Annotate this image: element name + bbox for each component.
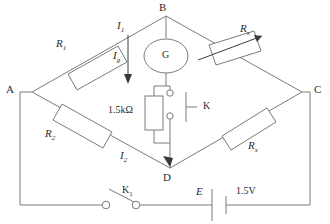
label-current-i2: I2	[120, 150, 127, 164]
label-battery-e: E	[196, 186, 203, 197]
switch-k1-terminal-left[interactable]	[102, 201, 110, 209]
circuit-diagram: B A C D R1 I1 Ig Rs G 1.5kΩ K R2 I2 Rx K…	[0, 0, 330, 224]
switch-k-terminal-bottom[interactable]	[167, 113, 173, 119]
node-label-c: C	[314, 84, 321, 95]
label-rs: Rs	[240, 23, 249, 37]
label-protect-resistor: 1.5kΩ	[108, 105, 133, 115]
label-switch-k1: K1	[122, 185, 133, 198]
label-galvanometer: G	[162, 50, 169, 60]
circuit-svg	[0, 0, 330, 224]
label-battery-voltage: 1.5V	[236, 186, 256, 196]
switch-k1-terminal-right[interactable]	[132, 201, 140, 209]
label-r1: R1	[56, 38, 66, 52]
label-current-i1: I1	[117, 20, 124, 34]
node-label-d: D	[163, 172, 171, 183]
resistor-1k5-body	[145, 96, 163, 130]
label-r2: R2	[45, 128, 55, 142]
label-rx: Rx	[248, 140, 258, 154]
resistor-r2	[53, 104, 112, 148]
label-switch-k: K	[203, 101, 210, 111]
node-label-a: A	[6, 84, 14, 95]
node-label-b: B	[159, 2, 166, 13]
current-arrow-ig-head	[124, 74, 132, 84]
resistor-rs	[198, 31, 262, 65]
label-current-ig: Ig	[113, 50, 120, 64]
switch-k-terminal-top[interactable]	[167, 90, 173, 96]
